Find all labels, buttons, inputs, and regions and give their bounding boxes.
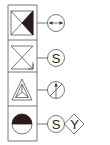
symbol-legend-diagram: S S Y (0, 0, 110, 145)
row-2-left-symbol-icon (12, 79, 32, 100)
row-3-diamond-label: Y (70, 117, 79, 132)
row-0-double-arrow-circle-icon (48, 15, 65, 32)
row-3-circle-label: S (52, 117, 61, 132)
row-3-left-symbol-icon (12, 114, 32, 134)
row-2-slash-arrow-circle-icon (48, 82, 65, 99)
row-1-circle-label: S (52, 51, 61, 66)
row-0-left-symbol-icon (11, 11, 33, 35)
row-1-left-symbol-icon (11, 46, 33, 69)
